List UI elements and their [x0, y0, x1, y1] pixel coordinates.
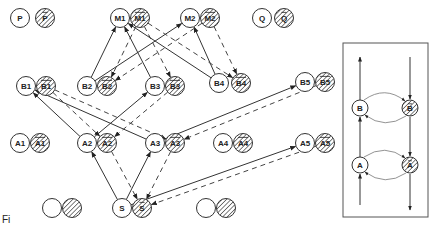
node-m1: M1 — [111, 9, 130, 28]
node-negated-a: A — [402, 157, 418, 173]
node-b5: B5 — [296, 73, 315, 92]
node-negated-a1: A1 — [31, 134, 50, 153]
implication-graph: PPM1M1M2M2QQB1B1B2B2B3B3B4B4B5B5A1A1A2A2… — [0, 0, 433, 228]
legend-panel: BBAA — [343, 43, 428, 217]
edge-a3-to-b5 — [164, 86, 296, 140]
dashed-edge-m2n-to-b4n — [214, 27, 237, 74]
node-b: B — [352, 100, 368, 116]
node-label: B2 — [102, 82, 113, 91]
node-label: A4 — [218, 139, 229, 148]
node-label: B1 — [41, 82, 52, 91]
node-a1: A1 — [11, 134, 30, 153]
node-negated-a2: A2 — [98, 134, 117, 153]
node-a2: A2 — [78, 134, 97, 153]
node-label: B5 — [320, 78, 331, 87]
node-negated-b5: B5 — [316, 73, 335, 92]
node-label: B5 — [300, 78, 311, 87]
figure-caption: Fi — [2, 214, 10, 225]
node-a: A — [352, 157, 368, 173]
node-b2: B2 — [78, 77, 97, 96]
node-negated-b3: B3 — [166, 77, 185, 96]
node-label: B3 — [170, 82, 181, 91]
node-empty — [43, 199, 62, 218]
dashed-edge-m2n-to-b2n — [115, 23, 202, 80]
node-negated-p: P — [36, 9, 55, 28]
plain-circle — [197, 199, 216, 218]
node-label: P — [42, 14, 48, 23]
edge-a3-to-b1 — [35, 90, 146, 139]
hatched-circle — [63, 199, 82, 218]
dashed-edge-a5n-to-sn — [151, 146, 316, 204]
node-label: S — [139, 204, 145, 213]
dashed-edge-b3n-to-a2n — [115, 92, 168, 136]
node-negated-s: S — [133, 199, 152, 218]
node-label: M2 — [184, 14, 196, 23]
edge-b4-to-m2 — [194, 27, 215, 74]
node-label: A — [407, 161, 413, 170]
node-label: A4 — [238, 139, 249, 148]
node-a5: A5 — [296, 134, 315, 153]
hatched-circle — [217, 199, 236, 218]
edge-s-to-a3 — [126, 152, 150, 200]
node-q: Q — [253, 9, 272, 28]
node-empty — [197, 199, 216, 218]
node-label: S — [119, 204, 125, 213]
node-p: P — [11, 9, 30, 28]
node-label: P — [17, 14, 23, 23]
node-label: B — [407, 104, 413, 113]
node-label: A5 — [320, 139, 331, 148]
dashed-edge-b1n-to-a2n — [53, 92, 100, 136]
node-negated-b1: B1 — [37, 77, 56, 96]
solid-edges — [33, 23, 295, 204]
node-label: A2 — [82, 139, 93, 148]
dashed-edge-b1n-to-a3n — [55, 90, 166, 139]
node-b3: B3 — [146, 77, 165, 96]
node-label: B2 — [82, 82, 93, 91]
node-label: Q — [281, 14, 287, 23]
dashed-edge-a2n-to-sn — [112, 151, 138, 199]
edge-b2-to-m2 — [95, 24, 182, 81]
node-label: A1 — [35, 139, 46, 148]
node-label: A — [357, 161, 363, 170]
node-negated-a4: A4 — [234, 134, 253, 153]
node-label: M1 — [114, 14, 126, 23]
dashed-edge-b5n-to-a3n — [184, 86, 316, 140]
node-label: A1 — [15, 139, 26, 148]
edge-s-to-a2 — [92, 152, 118, 200]
node-label: B — [357, 104, 363, 113]
plain-circle — [43, 199, 62, 218]
dashed-edges — [53, 23, 316, 205]
node-negated-empty — [217, 199, 236, 218]
node-label: Q — [259, 14, 265, 23]
node-label: B4 — [236, 79, 247, 88]
node-label: M2 — [204, 14, 216, 23]
node-a4: A4 — [214, 134, 233, 153]
node-negated-q: Q — [275, 9, 294, 28]
node-label: A3 — [170, 139, 181, 148]
node-negated-b4: B4 — [232, 74, 251, 93]
node-negated-empty — [63, 199, 82, 218]
node-s: S — [113, 199, 132, 218]
node-label: A3 — [150, 139, 161, 148]
node-m2: M2 — [181, 9, 200, 28]
node-negated-m1: M1 — [131, 9, 150, 28]
node-negated-a5: A5 — [316, 134, 335, 153]
graph-nodes: PPM1M1M2M2QQB1B1B2B2B3B3B4B4B5B5A1A1A2A2… — [11, 9, 335, 218]
node-b4: B4 — [210, 74, 229, 93]
node-label: A2 — [102, 139, 113, 148]
node-label: B4 — [214, 79, 225, 88]
node-label: B3 — [150, 82, 161, 91]
node-b1: B1 — [17, 77, 36, 96]
node-negated-m2: M2 — [201, 9, 220, 28]
edge-a2-to-b3 — [94, 92, 147, 136]
node-label: B1 — [21, 82, 32, 91]
node-a3: A3 — [146, 134, 165, 153]
node-negated-b: B — [402, 100, 418, 116]
legend-box — [343, 43, 428, 217]
node-label: A5 — [300, 139, 311, 148]
node-negated-b2: B2 — [98, 77, 117, 96]
node-label: M1 — [134, 14, 146, 23]
node-negated-a3: A3 — [166, 134, 185, 153]
edge-s-to-a5 — [131, 146, 296, 204]
